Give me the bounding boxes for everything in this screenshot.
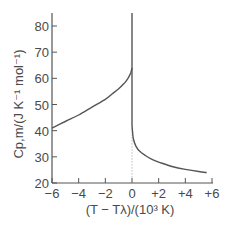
x-tick-label: −6: [45, 186, 60, 201]
x-axis-label: (T − Tλ)/(10³ K): [86, 202, 175, 217]
y-tick-label: 80: [35, 19, 49, 34]
y-tick-label: 70: [35, 45, 49, 60]
chart-svg: 20304050607080−6−4−20+2+4+6 (T − Tλ)/(10…: [0, 0, 232, 228]
data-curves: [52, 13, 207, 183]
x-tick-label: −2: [98, 186, 113, 201]
y-tick-label: 40: [35, 124, 49, 139]
y-tick-label: 30: [35, 150, 49, 165]
y-tick-label: 60: [35, 71, 49, 86]
x-tick-label: 0: [128, 186, 135, 201]
x-tick-label: +2: [151, 186, 166, 201]
x-tick-label: +4: [178, 186, 193, 201]
x-tick-label: +6: [205, 186, 220, 201]
x-tick-label: −4: [71, 186, 86, 201]
series-above-lambda-point: [132, 125, 207, 172]
lambda-transition-chart: 20304050607080−6−4−20+2+4+6 (T − Tλ)/(10…: [0, 0, 232, 228]
series-below-lambda-point: [52, 68, 132, 128]
y-tick-label: 50: [35, 98, 49, 113]
ticks: 20304050607080−6−4−20+2+4+6: [35, 19, 220, 201]
y-axis-label: Cp,m/(J K⁻¹ mol⁻¹): [11, 49, 26, 158]
